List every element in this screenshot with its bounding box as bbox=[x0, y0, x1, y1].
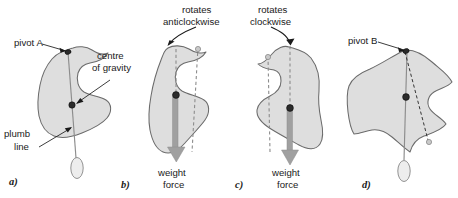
pivot-b-label: pivot B bbox=[348, 35, 377, 46]
centre-of-gravity-dot-d bbox=[403, 94, 410, 101]
previous-pivot-marker-b bbox=[195, 46, 200, 51]
plumb-bob-d bbox=[398, 161, 410, 182]
weight-force-label-c-line2: force bbox=[277, 179, 298, 190]
panel-letter-a: a) bbox=[9, 176, 18, 188]
panel-letter-c: c) bbox=[235, 179, 243, 191]
plumb-line-label-line1: plumb bbox=[4, 128, 30, 139]
pivot-a-label: pivot A bbox=[14, 37, 43, 48]
panel-a: pivot A centre of gravity plumb line a) bbox=[4, 37, 131, 188]
centre-of-gravity-dot-b bbox=[173, 92, 180, 99]
rotation-label-b-line2: anticlockwise bbox=[163, 16, 220, 27]
centre-of-gravity-dot-c bbox=[287, 105, 294, 112]
lamina-shape-d bbox=[347, 50, 452, 152]
centre-of-gravity-label-line2: of gravity bbox=[92, 62, 131, 73]
centre-of-gravity-label-line1: centre bbox=[97, 50, 124, 61]
plumb-line-label-line2: line bbox=[14, 141, 29, 152]
weight-force-label-b-line2: force bbox=[163, 179, 184, 190]
panel-c: rotates clockwise weight force c) bbox=[235, 4, 323, 191]
rotation-label-c-line1: rotates bbox=[258, 4, 288, 15]
rotation-arrowhead-b bbox=[168, 40, 175, 46]
physics-diagram-centre-of-gravity: pivot A centre of gravity plumb line a) … bbox=[0, 0, 458, 198]
panel-b: rotates anticlockwise weight force b) bbox=[121, 4, 220, 191]
rotation-label-c-line2: clockwise bbox=[250, 16, 291, 27]
previous-pivot-marker-c bbox=[265, 54, 270, 59]
centre-of-gravity-dot-a bbox=[69, 102, 75, 108]
plumb-bob-a bbox=[71, 158, 83, 179]
weight-force-label-c-line1: weight bbox=[271, 167, 300, 178]
panel-d: pivot B d) bbox=[347, 35, 452, 191]
previous-plumb-line-end-marker-d bbox=[426, 139, 431, 144]
panel-letter-b: b) bbox=[121, 179, 130, 191]
weight-force-label-b-line1: weight bbox=[157, 167, 186, 178]
lamina-shape-b bbox=[149, 46, 209, 153]
rotation-arrowhead-c bbox=[286, 39, 294, 46]
rotation-label-b-line1: rotates bbox=[182, 4, 212, 15]
panel-letter-d: d) bbox=[362, 179, 371, 191]
